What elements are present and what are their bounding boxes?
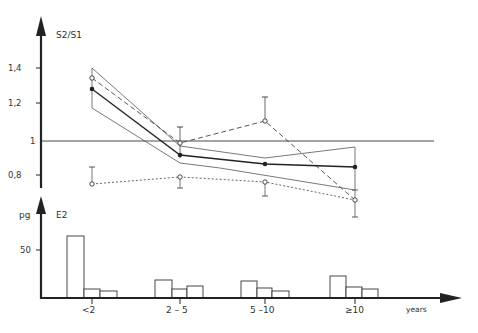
ytick-50: 50	[20, 245, 31, 255]
bars	[67, 236, 378, 298]
ytick-0-8: 0,8	[8, 170, 22, 180]
top-y-axis: S2/S1 1,4 1,2 1 0,8	[8, 16, 82, 188]
ytick-1-2: 1,2	[8, 98, 22, 108]
xtick-lt2: <2	[82, 305, 95, 315]
bottom-ylabel: E2	[56, 210, 67, 220]
series-dashed	[92, 78, 355, 200]
envelope-lines	[92, 68, 355, 190]
xlabel-years: years	[406, 305, 427, 314]
bottom-y-axis: pg E2 50	[19, 196, 67, 299]
xtick-2-5: 2 – 5	[166, 305, 188, 315]
xtick-5-10: 5 –10	[250, 305, 275, 315]
xtick-ge10: ≥10	[345, 305, 364, 315]
ytick-1-4: 1,4	[8, 63, 22, 73]
chart: S2/S1 1,4 1,2 1 0,8	[0, 0, 478, 333]
top-ylabel: S2/S1	[56, 30, 82, 40]
bottom-ylabel-unit: pg	[19, 210, 30, 220]
series-mean	[90, 87, 358, 170]
series-dotted	[89, 167, 358, 217]
ytick-1: 1	[30, 136, 35, 146]
open-markers	[90, 76, 357, 202]
